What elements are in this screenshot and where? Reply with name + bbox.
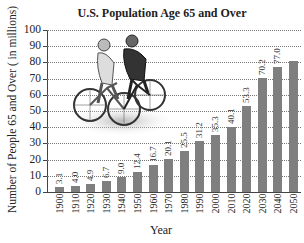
y-tick bbox=[43, 160, 47, 161]
y-tick-label: 50 bbox=[19, 104, 41, 116]
bar-2030 bbox=[258, 78, 267, 192]
y-tick-label: 0 bbox=[19, 185, 41, 197]
bar-1940 bbox=[117, 177, 126, 192]
y-tick bbox=[43, 95, 47, 96]
y-tick-label: 30 bbox=[19, 136, 41, 148]
bar-1980 bbox=[180, 151, 189, 192]
y-tick bbox=[43, 46, 47, 47]
x-tick-label: 1960 bbox=[147, 194, 158, 220]
y-tick bbox=[43, 62, 47, 63]
bar-1920 bbox=[86, 184, 95, 192]
chart-title: U.S. Population Age 65 and Over bbox=[0, 6, 304, 21]
bar-1950 bbox=[133, 172, 142, 192]
x-tick-label: 2020 bbox=[241, 194, 252, 220]
bar-value-label: 9.0 bbox=[116, 163, 126, 174]
y-tick-label: 90 bbox=[19, 39, 41, 51]
x-tick-label: 1940 bbox=[116, 194, 127, 220]
bar-value-label: 53.3 bbox=[241, 87, 251, 103]
y-tick bbox=[43, 176, 47, 177]
bar-value-label: 70.2 bbox=[257, 60, 267, 76]
bar-2050 bbox=[289, 61, 298, 192]
bar-1900 bbox=[55, 187, 64, 192]
bar-2040 bbox=[273, 67, 282, 192]
bar-value-label: 6.7 bbox=[101, 167, 111, 178]
x-tick-label: 1990 bbox=[194, 194, 205, 220]
bar-value-label: 40.1 bbox=[226, 108, 236, 124]
bar-1970 bbox=[164, 159, 173, 192]
bar-value-label: 12.4 bbox=[132, 153, 142, 169]
bar-2010 bbox=[227, 127, 236, 192]
bar-2000 bbox=[211, 135, 220, 192]
bar-1930 bbox=[102, 181, 111, 192]
x-tick-label: 1930 bbox=[100, 194, 111, 220]
x-tick-label: 1900 bbox=[54, 194, 65, 220]
x-tick-label: 1980 bbox=[178, 194, 189, 220]
y-tick bbox=[43, 79, 47, 80]
y-tick bbox=[43, 127, 47, 128]
x-tick-label: 2030 bbox=[256, 194, 267, 220]
bar-value-label: 4.9 bbox=[85, 170, 95, 181]
bar-value-label: 3.1 bbox=[54, 173, 64, 184]
y-tick-label: 60 bbox=[19, 88, 41, 100]
y-tick bbox=[43, 30, 47, 31]
x-tick-label: 1970 bbox=[163, 194, 174, 220]
bar-1990 bbox=[195, 141, 204, 192]
y-axis-label: Number of People 65 and Over ( in millio… bbox=[6, 33, 18, 213]
x-tick-label: 2000 bbox=[210, 194, 221, 220]
y-tick bbox=[43, 192, 47, 193]
x-tick-label: 1910 bbox=[69, 194, 80, 220]
bar-value-label: 25.5 bbox=[179, 132, 189, 148]
y-tick-label: 80 bbox=[19, 55, 41, 67]
x-tick-label: 2040 bbox=[272, 194, 283, 220]
y-tick-label: 10 bbox=[19, 169, 41, 181]
x-tick-label: 2010 bbox=[225, 194, 236, 220]
bar-value-label: 31.2 bbox=[194, 123, 204, 139]
gridline bbox=[47, 30, 301, 31]
y-tick-label: 100 bbox=[19, 23, 41, 35]
bar-1910 bbox=[71, 186, 80, 192]
bar-value-label: 20.1 bbox=[163, 141, 173, 157]
y-tick bbox=[43, 143, 47, 144]
bar-1960 bbox=[149, 165, 158, 192]
y-tick bbox=[43, 111, 47, 112]
bar-value-label: 77.0 bbox=[272, 49, 282, 65]
y-tick-label: 70 bbox=[19, 72, 41, 84]
cyclists-photo bbox=[62, 33, 177, 138]
x-tick-label: 1920 bbox=[85, 194, 96, 220]
y-tick-label: 20 bbox=[19, 153, 41, 165]
x-axis-label: Year bbox=[150, 223, 172, 238]
x-tick-label: 2050 bbox=[288, 194, 299, 220]
bar-2020 bbox=[242, 106, 251, 192]
bar-value-label: 4.0 bbox=[70, 171, 80, 182]
x-tick-label: 1950 bbox=[132, 194, 143, 220]
bar-value-label: 16.7 bbox=[148, 146, 158, 162]
bar-value-label: 35.3 bbox=[210, 116, 220, 132]
y-tick-label: 40 bbox=[19, 120, 41, 132]
